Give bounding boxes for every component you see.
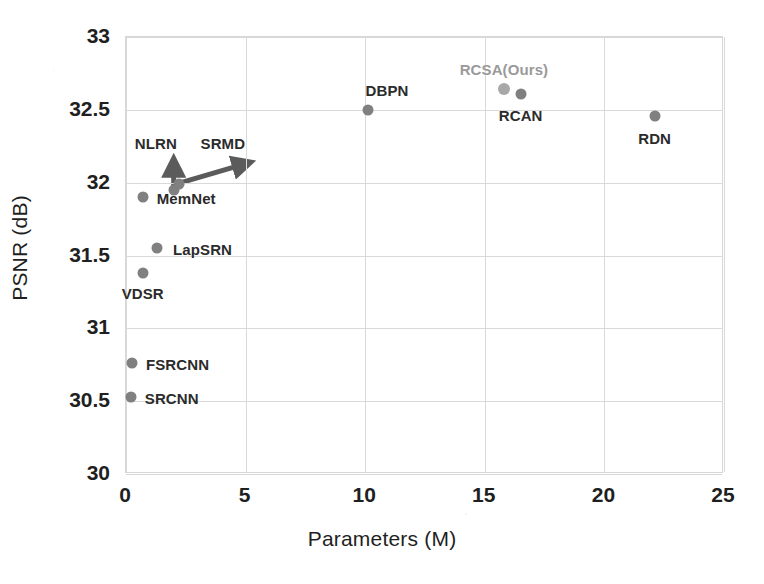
annotation-label-srmd: SRMD — [201, 135, 246, 152]
point-label-srcnn: SRCNN — [145, 389, 199, 406]
data-point-dbpn[interactable] — [362, 104, 373, 115]
x-tick-label: 20 — [592, 483, 615, 507]
y-tick-label: 32.5 — [69, 97, 110, 121]
data-point-srcnn[interactable] — [125, 391, 136, 402]
y-tick-label: 31 — [87, 315, 110, 339]
annotation-arrow-srmd — [178, 163, 247, 183]
data-point-vdsr[interactable] — [137, 267, 148, 278]
x-tick-label: 25 — [711, 483, 734, 507]
annotation-label-nlrn: NLRN — [135, 135, 177, 152]
y-tick-label: 32 — [87, 170, 110, 194]
data-point-rcsa-ours[interactable] — [498, 83, 510, 95]
point-label-dbpn: DBPN — [366, 81, 409, 98]
y-axis-title: PSNR (dB) — [8, 148, 32, 348]
point-label-vdsr: VDSR — [122, 284, 164, 301]
gridline-horizontal — [126, 474, 722, 475]
gridline-vertical — [246, 37, 247, 472]
scatter-chart: SRCNNFSRCNNVDSRLapSRNMemNetDBPNRCSA(Ours… — [0, 0, 764, 584]
y-tick-label: 30.5 — [69, 388, 110, 412]
gridline-vertical — [604, 37, 605, 472]
x-tick-label: 15 — [472, 483, 495, 507]
x-tick-label: 0 — [119, 483, 131, 507]
data-point-rdn[interactable] — [649, 110, 660, 121]
point-label-rcan: RCAN — [499, 106, 543, 123]
plot-area: SRCNNFSRCNNVDSRLapSRNMemNetDBPNRCSA(Ours… — [125, 36, 723, 473]
gridline-horizontal — [126, 110, 722, 111]
gridline-horizontal — [126, 328, 722, 329]
x-axis-title: Parameters (M) — [0, 527, 764, 551]
data-point-rcan[interactable] — [515, 88, 526, 99]
point-label-memnet: MemNet — [157, 190, 216, 207]
gridline-vertical — [126, 37, 127, 472]
point-label-fsrcnn: FSRCNN — [146, 356, 209, 373]
gridline-horizontal — [126, 401, 722, 402]
gridline-vertical — [724, 37, 725, 472]
gridline-horizontal — [126, 183, 722, 184]
point-label-rcsa-ours: RCSA(Ours) — [460, 61, 549, 78]
y-tick-label: 33 — [87, 24, 110, 48]
x-tick-label: 10 — [353, 483, 376, 507]
point-label-rdn: RDN — [638, 129, 671, 146]
point-label-lapsrn: LapSRN — [173, 241, 232, 258]
y-tick-label: 30 — [87, 461, 110, 485]
y-tick-label: 31.5 — [69, 243, 110, 267]
x-tick-label: 5 — [239, 483, 251, 507]
data-point-memnet[interactable] — [137, 192, 148, 203]
gridline-horizontal — [126, 37, 722, 38]
gridline-vertical — [365, 37, 366, 472]
data-point-lapsrn[interactable] — [152, 243, 163, 254]
gridline-vertical — [485, 37, 486, 472]
data-point-srmd[interactable] — [173, 179, 184, 190]
data-point-fsrcnn[interactable] — [126, 358, 137, 369]
